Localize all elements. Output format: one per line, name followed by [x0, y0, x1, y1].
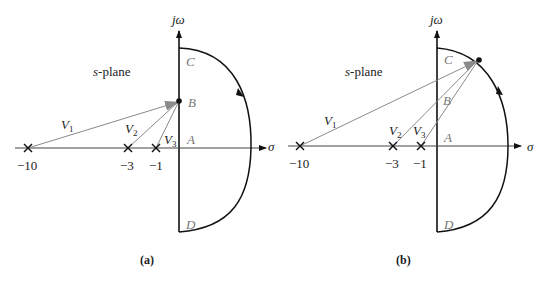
- pole-label-minus3: −3: [120, 158, 134, 173]
- left-sigma-label: σ: [268, 139, 275, 154]
- pole-label-minus1: −1: [413, 156, 427, 171]
- label-v3: V3: [164, 132, 177, 149]
- pole-label-minus10: −10: [289, 156, 309, 171]
- label-v1: V1: [61, 117, 73, 134]
- panel-b: σ jω σ −10 −3 −1 V1 V2 V3 C B A D s-: [268, 12, 534, 267]
- label-a: A: [443, 130, 452, 145]
- label-d: D: [443, 217, 454, 232]
- label-v2: V2: [125, 121, 137, 138]
- label-b: B: [443, 93, 451, 108]
- s-plane-label: s-plane: [93, 64, 131, 79]
- real-axis-label: σ: [527, 139, 534, 154]
- label-c: C: [444, 52, 453, 67]
- label-d: D: [185, 217, 196, 232]
- s-plane-label: s-plane: [345, 64, 383, 79]
- imag-axis-label: jω: [428, 12, 443, 27]
- pole-label-minus3: −3: [385, 156, 399, 171]
- imag-axis-label: jω: [170, 12, 185, 27]
- pole-label-minus10: −10: [17, 158, 37, 173]
- test-point-b: [176, 98, 182, 104]
- caption-b: (b): [396, 253, 411, 267]
- label-v1: V1: [324, 113, 336, 130]
- test-point: [476, 57, 482, 63]
- nyquist-contour-figure: jω −10 −3 −1 V1 V2 V3 C B A D s-plane (a…: [0, 0, 547, 284]
- label-c: C: [186, 54, 195, 69]
- label-a: A: [186, 132, 195, 147]
- vector-v1: [28, 102, 178, 148]
- pole-label-minus1: −1: [149, 158, 163, 173]
- label-b: B: [188, 95, 196, 110]
- label-v2: V2: [389, 123, 401, 140]
- direction-arrow-icon: [496, 86, 503, 95]
- panel-a: jω −10 −3 −1 V1 V2 V3 C B A D s-plane (a…: [15, 12, 266, 267]
- vector-v2: [393, 62, 476, 146]
- label-v3: V3: [413, 123, 426, 140]
- caption-a: (a): [140, 253, 154, 267]
